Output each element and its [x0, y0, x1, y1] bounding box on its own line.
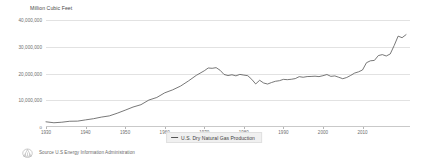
x-axis-tick-label: 2010: [357, 130, 367, 135]
x-axis-tick-mark: [323, 127, 324, 129]
series-line-chart: [46, 20, 410, 127]
x-axis-tick-label: 1990: [278, 130, 288, 135]
y-axis-tick-label: 20,000,000: [19, 71, 43, 76]
legend-item-label: U.S. Dry Natural Gas Production: [181, 135, 255, 141]
x-axis-tick-mark: [204, 127, 205, 129]
x-axis-tick-label: 2000: [318, 130, 328, 135]
series-line-us-dry-natural-gas-production: [46, 35, 406, 123]
y-axis-tick-label: 30,000,000: [19, 44, 43, 49]
legend-line-marker-icon: [171, 137, 178, 138]
plot-area: 40,000,00030,000,00020,000,00010,000,000…: [46, 20, 410, 127]
chart-legend[interactable]: U.S. Dry Natural Gas Production: [166, 132, 262, 143]
x-axis-tick-mark: [86, 127, 87, 129]
x-axis-tick-mark: [244, 127, 245, 129]
y-axis-title: Million Cubic Feet: [30, 5, 72, 11]
x-axis-tick-mark: [165, 127, 166, 129]
x-axis-tick-label: 1940: [80, 130, 90, 135]
natural-gas-production-chart: Million Cubic Feet 40,000,00030,000,0002…: [0, 0, 428, 161]
y-axis-tick-label: 0: [40, 125, 43, 130]
x-axis-tick-mark: [363, 127, 364, 129]
x-axis-tick-mark: [283, 127, 284, 129]
x-axis-tick-label: 1950: [120, 130, 130, 135]
y-axis-tick-label: 40,000,000: [19, 18, 43, 23]
x-axis-tick-mark: [125, 127, 126, 129]
source-attribution: Source U.S Energy Information Administra…: [21, 147, 135, 158]
eia-circular-logo-icon: [21, 147, 34, 158]
x-axis-tick-mark: [46, 127, 47, 129]
x-axis-tick-label: 1930: [41, 130, 51, 135]
y-axis-tick-label: 10,000,000: [19, 98, 43, 103]
source-text: Source U.S Energy Information Administra…: [39, 150, 135, 155]
